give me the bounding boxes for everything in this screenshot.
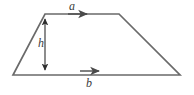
label-top-side-a: a <box>69 0 75 13</box>
trapezoid-diagram: a h b <box>0 0 194 95</box>
geometry-figure-container: a h b <box>0 0 194 95</box>
label-height-h: h <box>38 36 44 50</box>
label-bottom-side-b: b <box>86 76 92 90</box>
